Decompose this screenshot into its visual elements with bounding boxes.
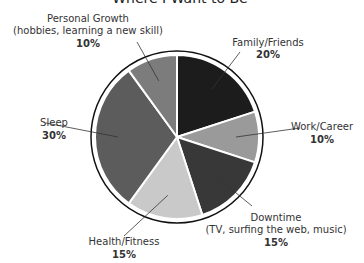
- pct-personal-growth: 10%: [76, 38, 100, 49]
- label-downtime: Downtime: [251, 212, 302, 223]
- label-work-career: Work/Career: [291, 121, 354, 132]
- pct-downtime: 15%: [264, 237, 288, 248]
- chart-title: Where I Want to Be: [112, 0, 247, 6]
- label-downtime-sub: (TV, surfing the web, music): [205, 224, 346, 235]
- label-sleep: Sleep: [40, 117, 68, 128]
- pct-health-fitness: 15%: [112, 249, 136, 260]
- pie-chart: Where I Want to Be Personal Growth (hobb…: [0, 0, 364, 263]
- label-health-fitness: Health/Fitness: [89, 236, 160, 247]
- pct-work-career: 10%: [310, 134, 334, 145]
- label-family-friends: Family/Friends: [232, 37, 304, 48]
- pct-sleep: 30%: [42, 130, 66, 141]
- pct-family-friends: 20%: [256, 49, 280, 60]
- label-personal-growth: Personal Growth: [47, 13, 129, 24]
- label-personal-growth-sub: (hobbies, learning a new skill): [13, 25, 163, 36]
